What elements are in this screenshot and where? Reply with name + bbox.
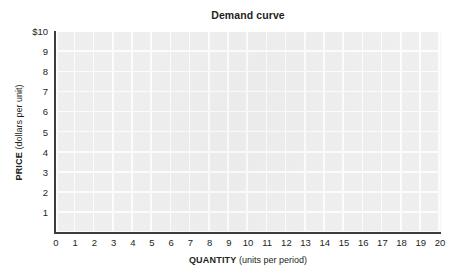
x-axis-tick-label: 7 [188,238,193,248]
y-axis-line [54,31,57,234]
x-axis-tick-label: 1 [73,238,78,248]
y-axis-tick-label: 7 [43,88,48,98]
x-axis-tick-label: 20 [435,238,446,248]
x-axis-title-unit: (units per period) [239,255,307,265]
plot-area [56,32,440,233]
x-axis-tick-label: 5 [149,238,154,248]
x-axis-tick-label: 18 [396,238,407,248]
y-axis-tick-label: 1 [43,208,48,218]
y-axis-tick-label: 2 [43,188,48,198]
x-axis-tick-label: 2 [92,238,97,248]
y-axis-tick-label: 8 [43,67,48,77]
y-axis-title: PRICE (dollars per unit) [14,32,28,233]
y-axis-tick-label: 5 [43,128,48,138]
y-axis-title-unit: (dollars per unit) [14,84,24,149]
y-axis-tick-label: 4 [43,148,48,158]
demand-curve-figure: Demand curve $10987654321 01234567891011… [0,0,473,279]
y-axis-tick-label: $10 [32,27,48,37]
x-axis-title: QUANTITY (units per period) [56,255,440,265]
x-axis-tick-label: 19 [416,238,427,248]
x-axis-tick-label: 9 [226,238,231,248]
y-axis-tick-label: 6 [43,108,48,118]
x-axis-tick-label: 14 [320,238,331,248]
plot-grain-overlay [56,32,440,233]
x-axis-tick-label: 3 [111,238,116,248]
x-axis-tick-label: 0 [53,238,58,248]
x-axis-title-key: QUANTITY [189,255,237,265]
x-axis-tick-label: 17 [377,238,388,248]
x-axis-tick-label: 16 [358,238,369,248]
y-axis-title-key: PRICE [14,152,24,181]
x-axis-tick-label: 4 [130,238,135,248]
x-axis-tick-label: 13 [300,238,311,248]
x-axis-tick-label: 6 [169,238,174,248]
x-axis-line [54,232,441,235]
x-axis-tick-label: 11 [262,238,272,248]
x-axis-tick-label: 15 [339,238,350,248]
chart-title: Demand curve [56,9,440,21]
y-axis-tick-label: 9 [43,47,48,57]
x-axis-tick-label: 10 [243,238,254,248]
y-axis-tick-label: 3 [43,168,48,178]
x-axis-tick-label: 12 [281,238,292,248]
x-axis-tick-label: 8 [207,238,212,248]
